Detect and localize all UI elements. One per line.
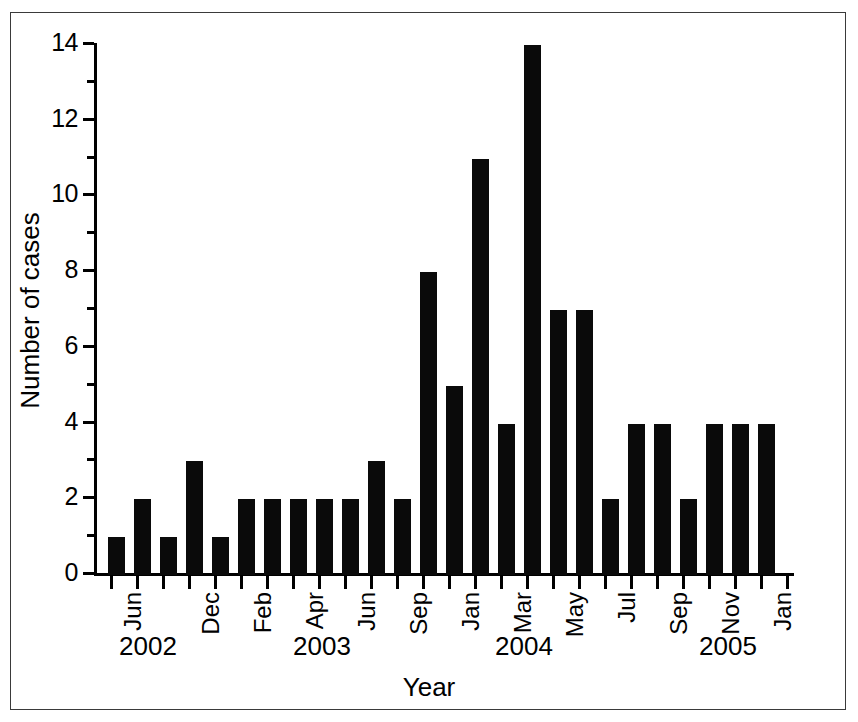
x-axis-tick	[682, 576, 685, 589]
x-axis-tick	[578, 576, 581, 589]
x-axis-month-label: May	[563, 592, 587, 637]
x-axis-month-label: Jan	[459, 592, 483, 631]
x-axis-month-label: Sep	[667, 592, 691, 635]
bar	[446, 386, 463, 575]
x-axis-month-label: Jan	[771, 592, 795, 631]
x-axis-year-label: 2004	[484, 632, 564, 660]
y-axis-minor-tick	[87, 231, 94, 234]
y-axis-major-tick	[83, 118, 94, 121]
x-axis-tick	[552, 576, 555, 589]
y-axis-minor-tick	[87, 80, 94, 83]
y-axis-minor-tick	[87, 534, 94, 537]
x-axis-tick	[760, 576, 763, 589]
y-axis-tick-label: 2	[30, 484, 78, 509]
y-axis-minor-tick	[87, 458, 94, 461]
x-axis-month-label: Jul	[615, 592, 639, 623]
y-axis-minor-tick	[87, 307, 94, 310]
bar	[316, 499, 333, 575]
bar	[498, 424, 515, 575]
x-axis-tick	[240, 576, 243, 589]
bar	[342, 499, 359, 575]
bar	[680, 499, 697, 575]
x-axis-tick	[214, 576, 217, 589]
y-axis-major-tick	[83, 42, 94, 45]
x-axis-title: Year	[0, 672, 858, 703]
x-axis-tick	[188, 576, 191, 589]
x-axis-month-label: Apr	[303, 592, 327, 629]
x-axis-month-label: Dec	[199, 592, 223, 635]
x-axis-tick	[656, 576, 659, 589]
y-axis-tick-labels: 02468101214	[20, 0, 78, 722]
y-axis-major-tick	[83, 421, 94, 424]
y-axis-major-tick	[83, 269, 94, 272]
bar	[576, 310, 593, 575]
bar	[186, 461, 203, 575]
x-axis-month-label: Jun	[121, 592, 145, 631]
y-axis-tick-label: 10	[30, 181, 78, 206]
bar	[212, 537, 229, 575]
x-axis-tick	[396, 576, 399, 589]
x-axis-tick	[136, 576, 139, 589]
x-axis-tick	[448, 576, 451, 589]
y-axis-tick-label: 14	[30, 30, 78, 55]
bar	[394, 499, 411, 575]
bar	[654, 424, 671, 575]
x-axis-tick	[786, 576, 789, 589]
bar	[420, 272, 437, 575]
bar	[550, 310, 567, 575]
y-axis-tick-label: 12	[30, 106, 78, 131]
bar	[108, 537, 125, 575]
bar	[628, 424, 645, 575]
y-axis-major-tick	[83, 496, 94, 499]
x-axis-month-label: Mar	[511, 592, 535, 633]
y-axis-minor-tick	[87, 156, 94, 159]
bar	[758, 424, 775, 575]
x-axis-tick	[422, 576, 425, 589]
x-axis-month-label: Nov	[719, 592, 743, 635]
x-axis-tick	[734, 576, 737, 589]
x-axis-tick	[474, 576, 477, 589]
x-axis-tick	[318, 576, 321, 589]
y-axis-tick-label: 8	[30, 257, 78, 282]
x-axis-tick	[110, 576, 113, 589]
bar	[290, 499, 307, 575]
x-axis-tick	[630, 576, 633, 589]
x-axis-year-label: 2003	[282, 632, 362, 660]
bar	[602, 499, 619, 575]
x-axis-tick	[292, 576, 295, 589]
y-axis-minor-tick	[87, 383, 94, 386]
bar	[238, 499, 255, 575]
x-axis-tick	[500, 576, 503, 589]
x-axis-tick	[708, 576, 711, 589]
bar	[732, 424, 749, 575]
figure: Number of cases 02468101214 JunDecFebApr…	[0, 0, 858, 722]
x-axis-tick	[604, 576, 607, 589]
x-axis-month-label: Jun	[355, 592, 379, 631]
y-axis-tick-label: 4	[30, 409, 78, 434]
bar	[472, 159, 489, 575]
x-axis-tick	[266, 576, 269, 589]
x-axis-year-label: 2002	[108, 632, 188, 660]
plot-area	[97, 43, 790, 575]
x-axis-year-label: 2005	[688, 632, 768, 660]
x-axis-tick	[162, 576, 165, 589]
y-axis-major-tick	[83, 572, 94, 575]
bar	[524, 45, 541, 575]
y-axis-tick-label: 6	[30, 333, 78, 358]
y-axis-major-tick	[83, 345, 94, 348]
x-axis-tick	[344, 576, 347, 589]
bar	[160, 537, 177, 575]
x-axis-tick	[370, 576, 373, 589]
bar	[368, 461, 385, 575]
y-axis-tick-label: 0	[30, 560, 78, 585]
bar	[264, 499, 281, 575]
x-axis-month-label: Feb	[251, 592, 275, 633]
x-axis-month-label: Sep	[407, 592, 431, 635]
x-axis-tick	[526, 576, 529, 589]
y-axis-major-tick	[83, 193, 94, 196]
bar	[706, 424, 723, 575]
bar	[134, 499, 151, 575]
